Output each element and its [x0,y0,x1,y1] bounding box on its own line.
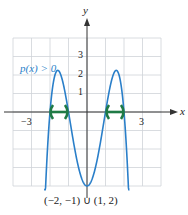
inequality-annotation: p(x) > 0 [20,62,56,74]
polynomial-graph [0,0,188,215]
solution-set-label: (−2, −1) ∪ (1, 2) [44,194,118,207]
y-tick-3: 3 [78,49,83,60]
x-tick-neg3: −3 [21,116,32,127]
axes [4,24,172,198]
y-axis-arrow-icon [84,18,90,26]
y-axis-label: y [83,4,88,16]
x-axis-arrow-icon [170,109,178,115]
y-tick-2: 2 [78,68,83,79]
x-axis-label: x [180,105,185,117]
y-tick-1: 1 [78,86,83,97]
x-tick-3: 3 [139,116,144,127]
